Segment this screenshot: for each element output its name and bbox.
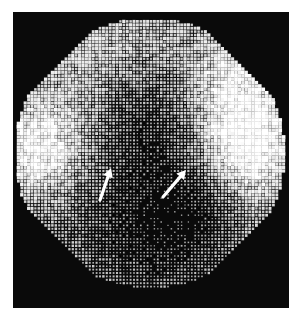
arrow-right-icon [163, 170, 186, 197]
dot-matrix-field [17, 20, 286, 288]
scintigraphy-image [0, 0, 299, 321]
